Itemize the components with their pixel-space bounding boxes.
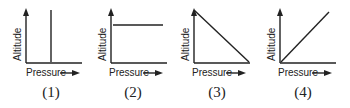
x-axis-label: Pressure	[278, 67, 318, 78]
curve-decreasing	[194, 10, 249, 62]
y-arrow-icon	[277, 8, 283, 16]
y-axis-label: Altitude	[266, 28, 277, 61]
y-axis-label: Altitude	[12, 28, 23, 61]
x-arrow-icon	[324, 70, 332, 76]
x-axis-label: Pressure	[192, 67, 232, 78]
graph-panel-2: Altitude Pressure (2)	[85, 0, 173, 108]
panel-caption: (2)	[113, 84, 153, 101]
panel-caption: (4)	[283, 84, 323, 101]
graph-panel-1: Altitude Pressure (1)	[0, 0, 88, 108]
y-axis-label: Altitude	[180, 28, 191, 61]
y-arrow-icon	[23, 8, 29, 16]
x-arrow-icon	[238, 70, 246, 76]
panel-caption: (3)	[197, 84, 237, 101]
panel-caption: (1)	[31, 84, 71, 101]
graph-panel-3: Altitude Pressure (3)	[170, 0, 258, 108]
x-axis-label: Pressure	[109, 67, 149, 78]
y-arrow-icon	[108, 8, 114, 16]
y-axis-label: Altitude	[97, 28, 108, 61]
x-arrow-icon	[72, 70, 80, 76]
x-axis-label: Pressure	[26, 67, 66, 78]
curve-increasing	[281, 12, 329, 62]
graph-panel-4: Altitude Pressure (4)	[256, 0, 344, 108]
x-arrow-icon	[155, 70, 163, 76]
